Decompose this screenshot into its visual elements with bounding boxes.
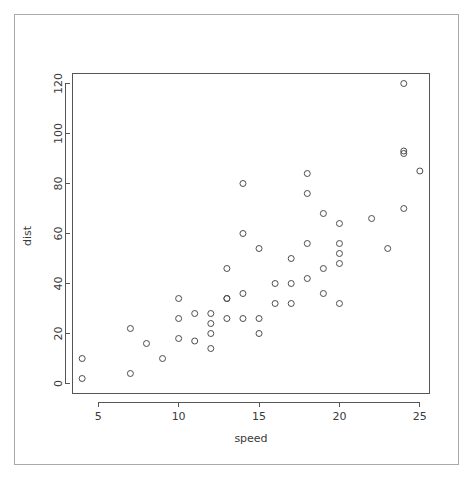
data-point (256, 246, 262, 252)
data-point (176, 336, 182, 342)
data-point (240, 181, 246, 187)
data-point (272, 301, 278, 307)
data-point (272, 281, 278, 287)
data-point (320, 266, 326, 272)
data-point (176, 316, 182, 322)
data-point (256, 331, 262, 337)
scatter-plot: 020406080100120 510152025 dist speed (0, 0, 475, 482)
data-point (336, 251, 342, 257)
data-points-layer (79, 81, 423, 382)
data-point (288, 256, 294, 262)
data-point (208, 311, 214, 317)
data-point (336, 241, 342, 247)
y-axis-tick-label: 0 (52, 380, 65, 387)
x-axis: 510152025 (95, 402, 427, 423)
data-point (304, 171, 310, 177)
data-point (79, 376, 85, 382)
y-axis-tick-label: 80 (52, 177, 65, 191)
x-axis-title: speed (234, 432, 267, 445)
data-point (320, 291, 326, 297)
data-point (304, 241, 310, 247)
data-point (79, 356, 85, 362)
data-point (288, 301, 294, 307)
y-axis-tick-label: 120 (52, 73, 65, 94)
y-axis-tick-label: 60 (52, 227, 65, 241)
data-point (176, 296, 182, 302)
y-axis-tick-label: 40 (52, 277, 65, 291)
data-point (336, 261, 342, 267)
data-point (417, 168, 423, 174)
data-point (401, 81, 407, 87)
data-point (240, 291, 246, 297)
data-point (304, 276, 310, 282)
data-point (208, 321, 214, 327)
data-point (256, 316, 262, 322)
data-point (336, 221, 342, 227)
data-point (127, 371, 133, 377)
data-point (127, 326, 133, 332)
data-point (224, 266, 230, 272)
data-point (336, 301, 342, 307)
data-point (208, 346, 214, 352)
x-axis-tick-label: 10 (172, 410, 186, 423)
data-point (304, 191, 310, 197)
data-point (320, 211, 326, 217)
data-point (208, 331, 214, 337)
data-point (224, 296, 230, 302)
data-point (401, 206, 407, 212)
x-axis-tick-label: 15 (252, 410, 266, 423)
data-point (369, 216, 375, 222)
data-point (143, 341, 149, 347)
data-point (192, 311, 198, 317)
x-axis-tick-label: 25 (413, 410, 427, 423)
x-axis-tick-label: 20 (332, 410, 346, 423)
y-axis: 020406080100120 (52, 73, 71, 387)
data-point (288, 281, 294, 287)
data-point (224, 316, 230, 322)
data-point (385, 246, 391, 252)
data-point (160, 356, 166, 362)
data-point (240, 231, 246, 237)
y-axis-tick-label: 100 (52, 123, 65, 144)
data-point (240, 316, 246, 322)
x-axis-tick-label: 5 (95, 410, 102, 423)
plot-panel-border (73, 74, 430, 394)
y-axis-tick-label: 20 (52, 327, 65, 341)
y-axis-title: dist (21, 225, 34, 246)
figure-container: 020406080100120 510152025 dist speed (0, 0, 475, 482)
data-point (192, 338, 198, 344)
